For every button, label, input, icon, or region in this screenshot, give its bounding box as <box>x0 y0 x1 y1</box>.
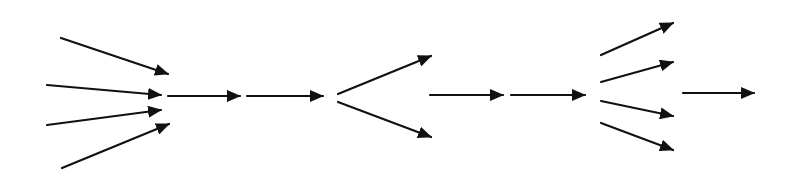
arrow-icon <box>338 102 431 137</box>
arrow-icon <box>47 110 161 125</box>
arrow-icon <box>601 62 673 82</box>
stage-diverge-4 <box>601 23 673 150</box>
arrow-icon <box>61 38 168 74</box>
arrow-icon <box>601 23 673 55</box>
arrow-icon <box>601 101 673 116</box>
arrow-flow-diagram <box>0 0 798 179</box>
arrow-icon <box>47 85 161 95</box>
arrow-icon <box>601 123 673 150</box>
stage-diverge-2 <box>338 56 431 137</box>
stage-converge-4 <box>47 38 169 168</box>
arrow-icon <box>62 124 169 168</box>
arrow-icon <box>338 56 431 94</box>
